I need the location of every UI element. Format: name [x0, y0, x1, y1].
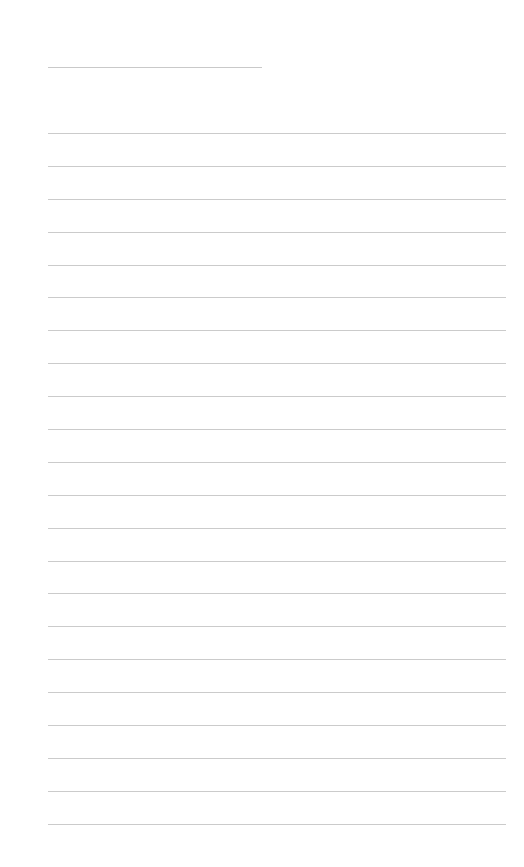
ruled-line[interactable] [48, 297, 506, 330]
ruled-line[interactable] [48, 561, 506, 594]
title-underline [48, 67, 262, 68]
ruled-line[interactable] [48, 363, 506, 396]
ruled-line[interactable] [48, 429, 506, 462]
ruled-line[interactable] [48, 199, 506, 232]
ruled-line[interactable] [48, 791, 506, 824]
ruled-line[interactable] [48, 725, 506, 758]
ruled-line[interactable] [48, 593, 506, 626]
ruled-line[interactable] [48, 758, 506, 791]
ruled-line[interactable] [48, 626, 506, 659]
ruled-line[interactable] [48, 692, 506, 725]
ruled-line[interactable] [48, 659, 506, 692]
ruled-line[interactable] [48, 495, 506, 528]
title-field[interactable] [48, 48, 262, 66]
ruled-line[interactable] [48, 166, 506, 199]
ruled-line[interactable] [48, 330, 506, 363]
ruled-line[interactable] [48, 462, 506, 495]
ruled-line[interactable] [48, 396, 506, 429]
ruled-lines-area [48, 133, 506, 857]
ruled-line[interactable] [48, 133, 506, 166]
lined-paper-page [0, 0, 524, 867]
ruled-line[interactable] [48, 232, 506, 265]
ruled-line[interactable] [48, 265, 506, 298]
ruled-line[interactable] [48, 528, 506, 561]
ruled-line[interactable] [48, 824, 506, 857]
